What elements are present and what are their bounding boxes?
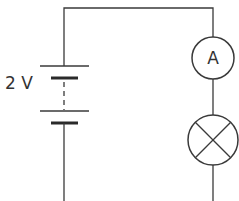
ammeter-letter: A — [207, 48, 219, 68]
top-wire — [64, 8, 213, 66]
circuit-diagram: 2 V A — [0, 0, 239, 201]
ammeter: A — [192, 37, 234, 79]
lamp — [188, 115, 238, 165]
battery-voltage-label: 2 V — [5, 73, 33, 93]
